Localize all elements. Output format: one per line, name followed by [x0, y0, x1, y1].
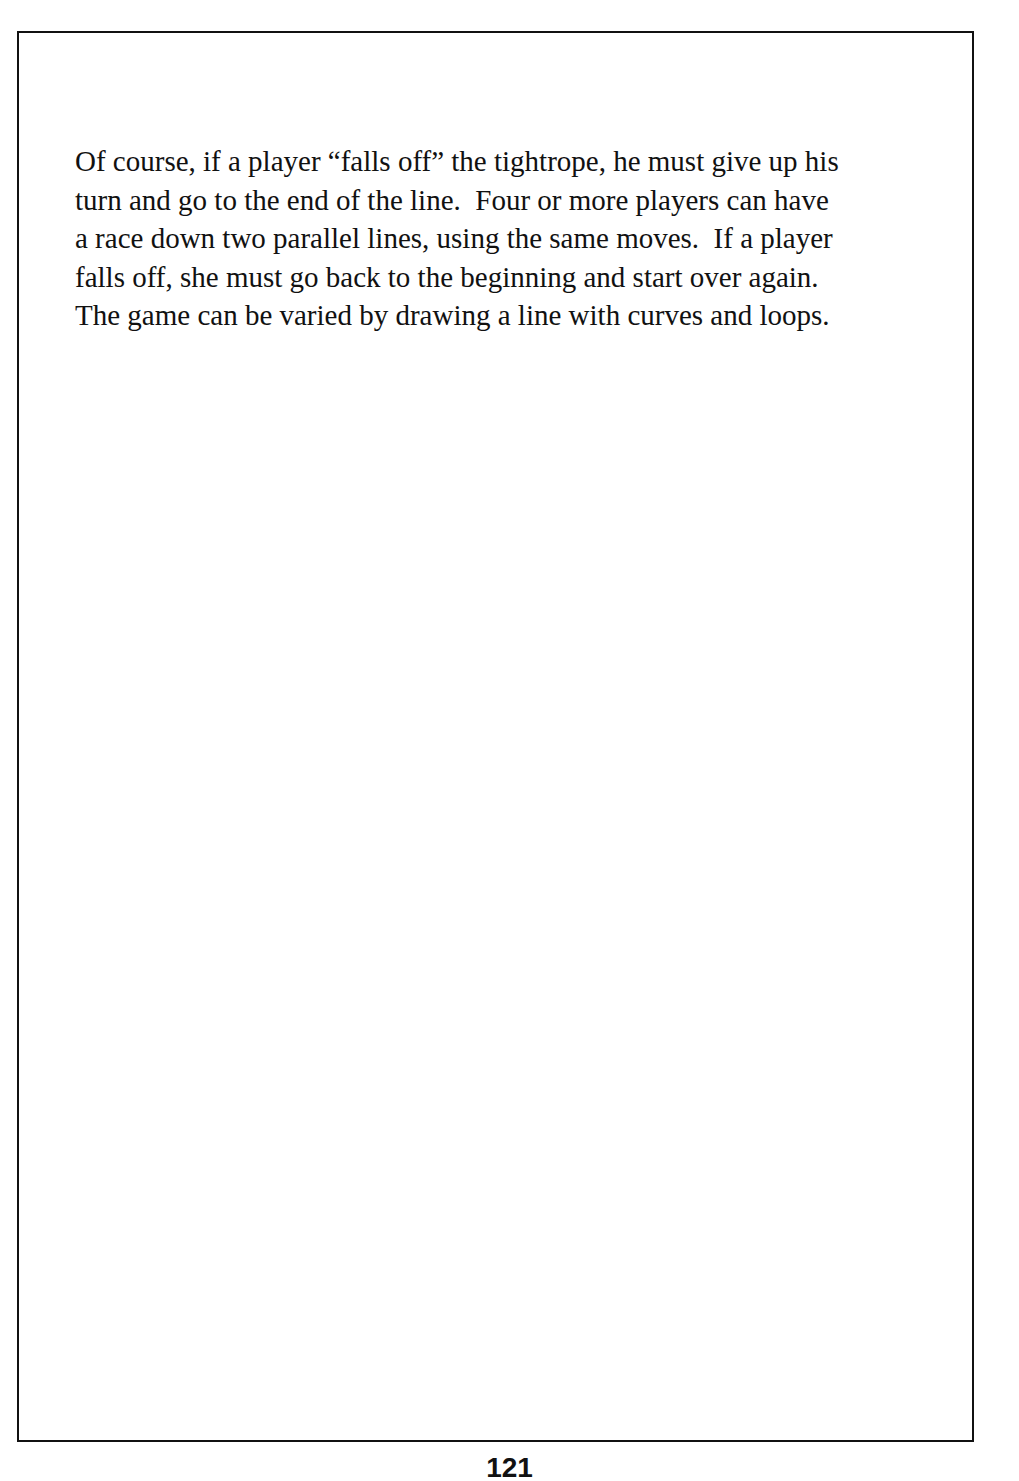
paragraph-line: The game can be varied by drawing a line…: [75, 296, 955, 335]
paragraph-line: Of course, if a player “falls off” the t…: [75, 142, 955, 181]
body-paragraph: Of course, if a player “falls off” the t…: [75, 142, 955, 335]
page-number: 121: [0, 1454, 1019, 1481]
paragraph-line: turn and go to the end of the line. Four…: [75, 181, 955, 220]
paragraph-line: falls off, she must go back to the begin…: [75, 258, 955, 297]
paragraph-line: a race down two parallel lines, using th…: [75, 219, 955, 258]
